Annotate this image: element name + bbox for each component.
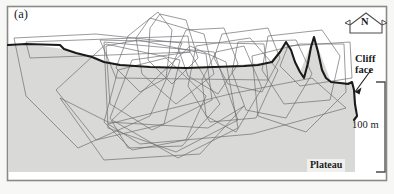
terrain-cross-section-svg (0, 0, 394, 194)
figure-panel: (a) N Cliff face 100 m Plateau (0, 0, 394, 194)
